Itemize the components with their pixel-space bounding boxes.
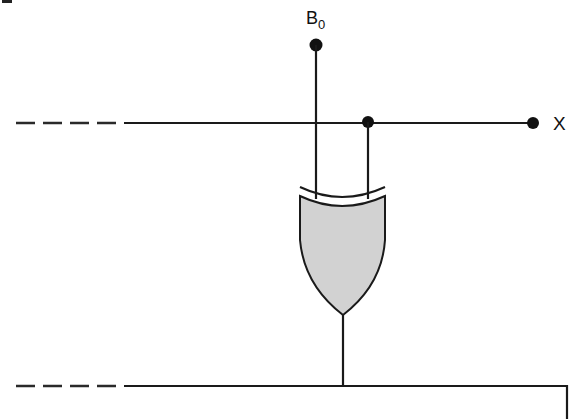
output-x-terminal [527,117,539,129]
xor-circuit-diagram: B0 X [0,0,571,419]
xor-gate [300,196,385,315]
output-x-label: X [553,113,566,134]
xor-input-arc [300,187,385,197]
input-b0-label: B0 [306,8,325,32]
corner-mark [2,0,12,3]
